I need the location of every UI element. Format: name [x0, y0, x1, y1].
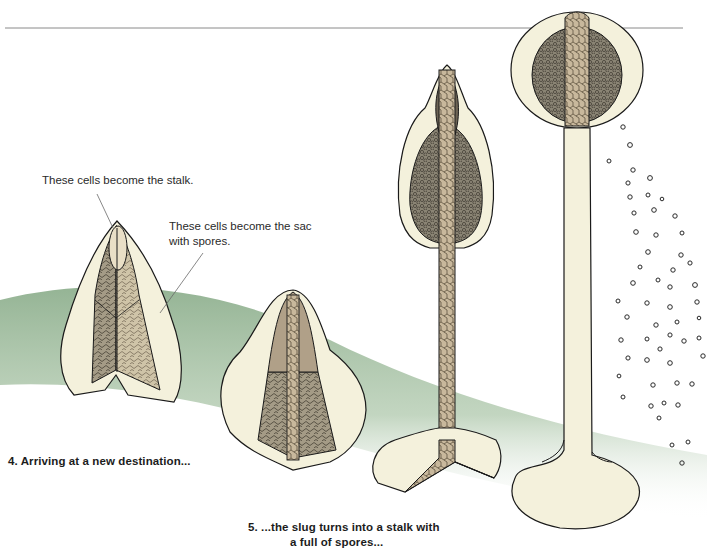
spores [607, 125, 705, 465]
caption-step-5-line1: 5. ...the slug turns into a stalk with [248, 520, 440, 535]
caption-step-5-line2: a full of spores... [290, 535, 383, 550]
stalk-leader-line [97, 194, 113, 228]
annotation-sac-cells-line2: with spores. [169, 234, 230, 249]
caption-step-4: 4. Arriving at a new destination... [8, 454, 191, 469]
annotation-sac-cells-line1: These cells become the sac [169, 219, 312, 234]
stage-1-slug [61, 221, 182, 402]
annotation-stalk-cells: These cells become the stalk. [42, 173, 194, 188]
